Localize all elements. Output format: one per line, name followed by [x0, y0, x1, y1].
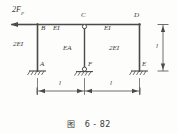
- member-label-left-column: 2EI: [13, 41, 23, 48]
- support-f: [75, 67, 94, 76]
- load-arrow-icon: [11, 22, 33, 27]
- member-label-right-column: 2EI: [109, 45, 119, 52]
- member-label-left-beam: EI: [53, 25, 60, 32]
- hinge-c-icon: [82, 25, 86, 29]
- figure-caption: 图6 - 82: [0, 118, 178, 129]
- support-e: [130, 71, 149, 75]
- dimension-label-span-left: l: [59, 80, 61, 87]
- dimension-label-span-right: l: [110, 80, 112, 87]
- load-label: 2FP: [12, 6, 24, 16]
- dimension-height: [158, 25, 169, 72]
- member-label-right-beam: EI: [104, 25, 111, 32]
- joint-label-f: F: [88, 61, 92, 68]
- joint-label-e: E: [142, 61, 146, 68]
- support-a: [28, 71, 47, 75]
- joint-label-d: D: [134, 12, 139, 19]
- dimension-spans: [37, 78, 140, 95]
- joint-label-c: C: [81, 12, 86, 19]
- joint-label-b: B: [41, 25, 45, 32]
- joint-label-a: A: [40, 61, 44, 68]
- dimension-label-height: l: [156, 43, 158, 50]
- member-label-middle-column: EA: [63, 45, 72, 52]
